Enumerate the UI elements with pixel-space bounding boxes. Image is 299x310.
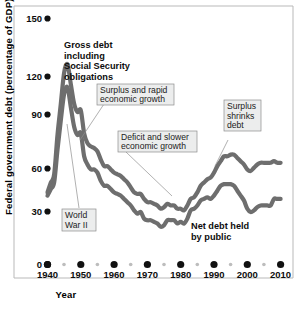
x-tick-dot-1990 — [210, 261, 217, 268]
surplus-rapid-line-2: economic growth — [100, 94, 165, 104]
deficit-slower-line-2: economic growth — [121, 141, 186, 151]
x-tick-label-1950: 1950 — [70, 269, 91, 280]
gross-debt-line-1: Gross debt — [64, 40, 113, 50]
surplus-rapid-line-1: Surplus and rapid — [100, 85, 168, 95]
x-tick-dot-1940 — [44, 261, 51, 268]
y-tick-dot-30 — [44, 208, 50, 214]
y-tick-label-30: 30 — [31, 206, 42, 217]
x-axis-title: Year — [56, 289, 77, 300]
deficit-slower-line-1: Deficit and slower — [121, 132, 189, 142]
x-tick-label-2000: 2000 — [237, 269, 258, 280]
gross-debt-line-2: including — [64, 51, 105, 61]
world-war-two-line-2: War II — [65, 220, 88, 230]
surplus-shrinks-line-1: Surplus — [227, 101, 256, 111]
x-tick-dot-2005 — [262, 263, 266, 267]
y-tick-dot-150 — [44, 15, 50, 21]
x-tick-label-1970: 1970 — [137, 269, 158, 280]
surplus-shrinks-line-2: shrinks — [227, 111, 254, 121]
x-tick-dot-1960 — [111, 261, 118, 268]
x-tick-label-1940: 1940 — [37, 269, 58, 280]
x-tick-dot-1965 — [129, 263, 133, 267]
x-tick-dot-1970 — [144, 261, 151, 268]
gross-debt-line-4: obligations — [64, 72, 113, 82]
y-tick-label-150: 150 — [26, 13, 42, 24]
x-tick-dot-1980 — [177, 261, 184, 268]
net-debt-line-1: Net debt held — [191, 221, 249, 231]
annotation-surplus-shrinks-debt: Surplus shrinks debt — [224, 100, 261, 131]
x-tick-label-1960: 1960 — [104, 269, 125, 280]
annotation-deficit-slower-growth: Deficit and slower economic growth — [118, 131, 197, 152]
y-tick-label-90: 90 — [31, 109, 42, 120]
x-tick-dot-2010 — [277, 261, 284, 268]
debt-gdp-line-chart: 150 120 90 60 30 0 Federal government de… — [0, 0, 299, 310]
x-tick-label-1980: 1980 — [170, 269, 191, 280]
x-tick-label-1990: 1990 — [203, 269, 224, 280]
annotation-world-war-two: World War II — [62, 209, 96, 231]
surplus-shrinks-line-3: debt — [227, 120, 244, 130]
annotation-surplus-rapid-growth: Surplus and rapid economic growth — [97, 84, 174, 105]
x-tick-dot-1955 — [96, 263, 100, 267]
y-tick-dot-90 — [44, 111, 50, 117]
y-tick-label-120: 120 — [26, 71, 42, 82]
y-tick-dot-120 — [44, 73, 50, 79]
x-tick-dot-1975 — [162, 263, 166, 267]
x-tick-dot-1950 — [77, 261, 84, 268]
y-tick-label-60: 60 — [31, 163, 42, 174]
y-axis-title: Federal government debt (percentage of G… — [3, 0, 14, 215]
x-tick-dot-1985 — [196, 263, 200, 267]
gross-debt-line-3: Social Security — [64, 61, 131, 71]
x-tick-label-2010: 2010 — [270, 269, 291, 280]
y-tick-dot-60 — [44, 165, 50, 171]
world-war-two-line-1: World — [65, 210, 88, 220]
chart-container: 150 120 90 60 30 0 Federal government de… — [0, 0, 299, 310]
x-tick-dot-1945 — [62, 263, 66, 267]
x-tick-dot-2000 — [244, 261, 251, 268]
x-tick-dot-1995 — [229, 263, 233, 267]
net-debt-line-2: by public — [191, 232, 231, 242]
